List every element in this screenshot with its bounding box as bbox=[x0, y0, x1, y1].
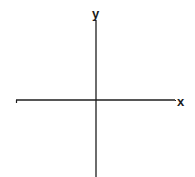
x-axis-right-tick bbox=[175, 100, 176, 101]
axes-diagram bbox=[0, 0, 195, 177]
y-axis-label: y bbox=[92, 7, 99, 20]
x-axis-label: x bbox=[177, 95, 184, 108]
